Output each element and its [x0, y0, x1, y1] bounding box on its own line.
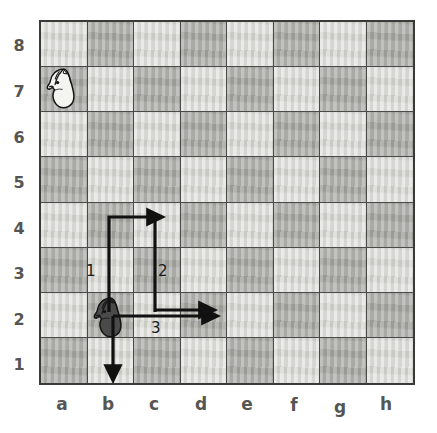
file-label-d: d: [186, 394, 216, 414]
white-knight[interactable]: [43, 66, 83, 114]
rank-label-4: 4: [6, 219, 32, 238]
rank-label-8: 8: [6, 36, 32, 55]
board-container: [39, 20, 415, 385]
file-label-e: e: [232, 394, 262, 414]
rank-label-5: 5: [6, 173, 32, 192]
file-label-a: a: [47, 394, 77, 414]
arrow-label-2: 2: [158, 262, 168, 280]
rank-label-6: 6: [6, 128, 32, 147]
file-label-b: b: [93, 394, 123, 414]
chess-diagram: 8 7 6 5 4 3 2 1 a b: [0, 0, 437, 433]
file-label-g: g: [325, 397, 355, 417]
piece-layer: [39, 20, 415, 385]
rank-label-3: 3: [6, 264, 32, 283]
rank-label-1: 1: [6, 355, 32, 374]
file-label-c: c: [139, 394, 169, 414]
black-knight[interactable]: [90, 295, 130, 343]
file-label-h: h: [371, 394, 401, 414]
arrow-label-3: 3: [151, 319, 161, 337]
arrow-label-1: 1: [86, 262, 96, 280]
rank-label-2: 2: [6, 310, 32, 329]
file-label-f: f: [279, 395, 309, 415]
rank-label-7: 7: [6, 82, 32, 101]
